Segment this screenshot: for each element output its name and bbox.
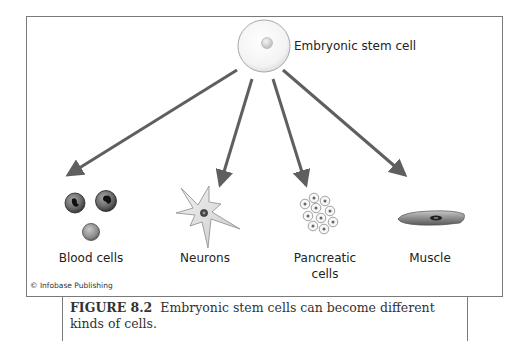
- figure-caption: FIGURE 8.2Embryonic stem cells can becom…: [70, 300, 460, 332]
- pancreatic-cells-label-line2: cells: [280, 266, 370, 282]
- blood-cells-label: Blood cells: [46, 250, 136, 266]
- arrow-to-pancreatic-cells: [273, 79, 306, 185]
- blood-cells-icon: [65, 191, 117, 241]
- differentiation-arrows: [68, 70, 405, 185]
- arrow-to-muscle: [283, 70, 405, 175]
- pancreatic-cells-icon: [300, 193, 338, 234]
- muscle-label: Muscle: [385, 250, 475, 266]
- stem-cell-label: Embryonic stem cell: [294, 38, 416, 54]
- stem-cell-icon: [238, 20, 290, 72]
- neuron-icon: [176, 186, 240, 248]
- arrow-to-blood-cells: [68, 70, 237, 175]
- copyright-credit: © Infobase Publishing: [30, 281, 113, 290]
- neurons-label: Neurons: [160, 250, 250, 266]
- muscle-cell-icon: [398, 211, 465, 225]
- pancreatic-cells-label-line1: Pancreatic: [280, 250, 370, 266]
- figure-number: FIGURE 8.2: [70, 300, 152, 315]
- arrow-to-neurons: [220, 79, 252, 185]
